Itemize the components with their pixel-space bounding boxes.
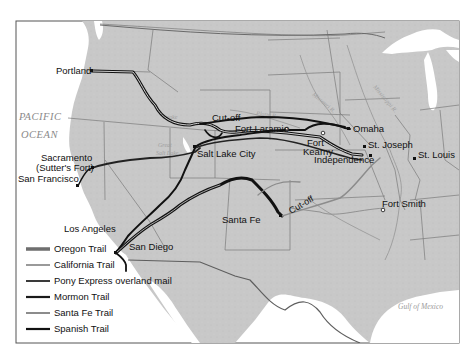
legend-label: Spanish Trail xyxy=(54,323,109,334)
legend-label: Mormon Trail xyxy=(54,291,109,302)
pacific-ocean-label-1: PACIFIC xyxy=(18,111,62,122)
santa-fe-marker[interactable] xyxy=(279,214,282,217)
st-joseph-label: St. Joseph xyxy=(368,139,413,150)
san-francisco-label: San Francisco xyxy=(18,173,79,184)
sutters-fort-label: (Sutter's Fort) xyxy=(36,162,94,173)
legend-label: California Trail xyxy=(54,259,115,270)
st-louis-label: St. Louis xyxy=(418,149,455,160)
cutoff-north-label: Cut-off xyxy=(212,112,241,123)
san-diego-label: San Diego xyxy=(129,241,173,252)
omaha-marker[interactable] xyxy=(347,127,350,130)
legend-label: Santa Fe Trail xyxy=(54,307,113,318)
independence-label: Independence xyxy=(314,154,374,165)
los-angeles-label: Los Angeles xyxy=(64,223,116,234)
st-louis-marker[interactable] xyxy=(413,157,416,160)
fort-laramie-label: Fort Laramie xyxy=(235,123,289,134)
legend-label: Pony Express overland mail xyxy=(54,275,172,286)
great-salt-lake-label-2: Salt Lake xyxy=(156,150,179,156)
st-joseph-marker[interactable] xyxy=(363,145,366,148)
legend-label: Oregon Trail xyxy=(54,243,106,254)
gulf-of-mexico-label: Gulf of Mexico xyxy=(398,302,443,311)
omaha-label: Omaha xyxy=(353,123,385,134)
trails-map: PACIFIC OCEAN Gulf of Mexico Snake Platt… xyxy=(0,0,475,357)
los-angeles-marker[interactable] xyxy=(114,251,117,254)
salt-lake-city-marker[interactable] xyxy=(193,145,196,148)
santa-fe-label: Santa Fe xyxy=(222,214,261,225)
salt-lake-city-label: Salt Lake City xyxy=(197,148,256,159)
fort-kearny-marker[interactable] xyxy=(321,131,325,135)
great-salt-lake-label-1: Great xyxy=(158,142,172,148)
san-francisco-marker[interactable] xyxy=(76,184,79,187)
pacific-ocean-label-2: OCEAN xyxy=(21,129,58,140)
fort-smith-label: Fort Smith xyxy=(382,198,426,209)
portland-label: Portland xyxy=(56,65,91,76)
